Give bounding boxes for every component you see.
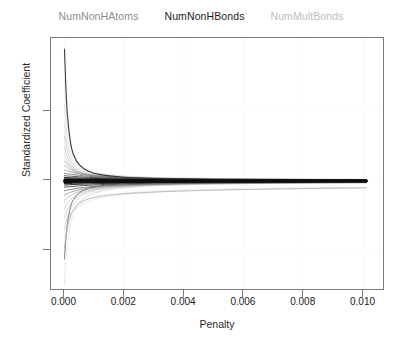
y-tick-mark <box>43 179 50 180</box>
x-tick-label: 0.008 <box>273 296 333 307</box>
y-tick-mark <box>43 249 50 250</box>
x-tick-label: 0.000 <box>33 296 93 307</box>
chart-root: NumNonHAtoms NumNonHBonds NumMultBonds S… <box>0 0 402 340</box>
x-tick-label: 0.010 <box>333 296 393 307</box>
x-tick-label: 0.002 <box>93 296 153 307</box>
y-tick-mark <box>43 110 50 111</box>
axis-ticks: 100-100.0000.0020.0040.0060.0080.010 <box>0 0 402 340</box>
x-tick-label: 0.006 <box>213 296 273 307</box>
x-tick-label: 0.004 <box>153 296 213 307</box>
